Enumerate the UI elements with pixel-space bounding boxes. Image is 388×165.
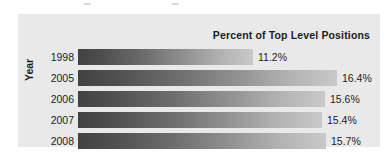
value-label-2008: 15.7% xyxy=(331,133,361,149)
plot-area: 1998 11.2% 2005 16.4% 2006 15.6% 2007 15… xyxy=(18,49,380,147)
category-label-2005: 2005 xyxy=(18,70,74,86)
bar-row: 2008 15.7% xyxy=(18,133,380,149)
bar-row: 1998 11.2% xyxy=(18,49,380,65)
category-label-2006: 2006 xyxy=(18,91,74,107)
bar-2006[interactable] xyxy=(78,91,325,107)
value-label-2006: 15.6% xyxy=(330,91,360,107)
artifact-mark-left xyxy=(84,3,91,5)
bar-row: 2007 15.4% xyxy=(18,112,380,128)
bar-1998[interactable] xyxy=(78,49,253,65)
bar-row: 2005 16.4% xyxy=(18,70,380,86)
bar-2007[interactable] xyxy=(78,112,322,128)
bar-2008[interactable] xyxy=(78,133,326,149)
value-label-1998: 11.2% xyxy=(258,49,287,65)
value-label-2005: 16.4% xyxy=(342,70,372,86)
bar-chart-panel: Percent of Top Level Positions Year 1998… xyxy=(18,14,380,147)
category-label-2008: 2008 xyxy=(18,133,74,149)
value-label-2007: 15.4% xyxy=(327,112,357,128)
bar-2005[interactable] xyxy=(78,70,337,86)
artifact-mark-right xyxy=(172,3,179,5)
page-top-artifacts xyxy=(0,0,388,13)
bar-row: 2006 15.6% xyxy=(18,91,380,107)
chart-title: Percent of Top Level Positions xyxy=(213,29,370,41)
category-label-1998: 1998 xyxy=(18,49,74,65)
category-label-2007: 2007 xyxy=(18,112,74,128)
